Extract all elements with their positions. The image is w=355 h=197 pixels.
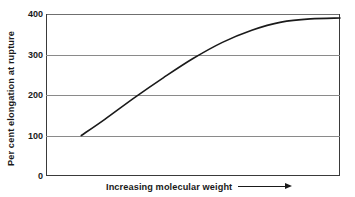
arrow-right-icon — [238, 183, 296, 191]
data-curve — [46, 14, 340, 176]
arrow-shaft — [238, 186, 288, 187]
arrow-head — [285, 183, 292, 189]
curve-path — [81, 18, 340, 135]
y-tick-label-0: 0 — [38, 171, 43, 181]
y-axis-tick-labels: 4003002001000 — [18, 0, 46, 197]
y-tick-label-200: 200 — [28, 90, 43, 100]
y-tick-label-300: 300 — [28, 50, 43, 60]
y-tick-label-400: 400 — [28, 9, 43, 19]
chart-figure: Per cent elongation at rupture 400300200… — [0, 0, 355, 197]
x-axis-caption: Increasing molecular weight — [46, 176, 340, 197]
x-axis-label: Increasing molecular weight — [106, 182, 232, 192]
y-tick-label-100: 100 — [28, 131, 43, 141]
plot-area — [46, 14, 340, 176]
